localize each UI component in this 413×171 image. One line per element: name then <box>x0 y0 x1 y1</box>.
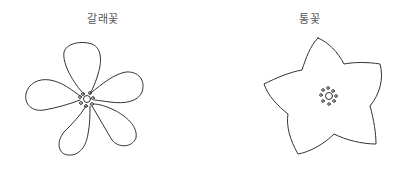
fused-petal-flower-panel: 통꽃 <box>206 0 413 171</box>
separate-petal-flower-panel: 갈래꽃 <box>0 0 206 171</box>
fused-petal-flower-illustration <box>206 0 413 171</box>
separate-petal-flower-illustration <box>0 0 206 171</box>
